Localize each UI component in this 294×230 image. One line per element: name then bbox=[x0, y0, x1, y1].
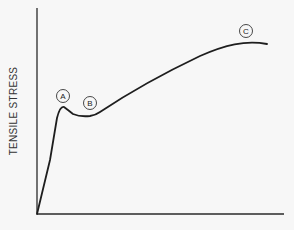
marker-c-label: C bbox=[243, 27, 249, 36]
stress-strain-diagram: TENSILE STRESS A B C bbox=[0, 0, 294, 230]
y-axis-label: TENSILE STRESS bbox=[8, 67, 19, 156]
marker-b-label: B bbox=[87, 99, 92, 108]
marker-c: C bbox=[240, 25, 253, 38]
marker-a-label: A bbox=[60, 92, 66, 101]
marker-a: A bbox=[57, 90, 70, 103]
stress-strain-curve bbox=[37, 43, 267, 214]
marker-b: B bbox=[84, 97, 97, 110]
